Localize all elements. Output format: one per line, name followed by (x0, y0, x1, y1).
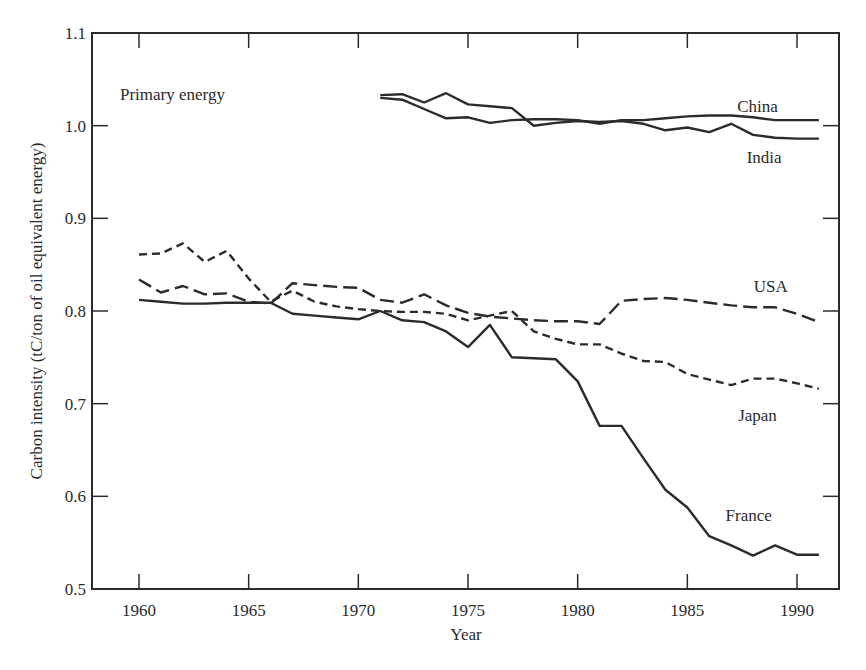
x-tick-label: 1970 (341, 601, 375, 620)
series-line-france (139, 300, 819, 556)
x-tick-label: 1960 (122, 601, 156, 620)
x-axis-ticks: 1960196519701975198019851990 (122, 33, 814, 620)
carbon-intensity-chart: 1960196519701975198019851990 0.50.60.70.… (0, 0, 866, 670)
series-label-japan: Japan (738, 406, 777, 425)
series-line-japan (139, 243, 819, 388)
series-label-china: China (737, 97, 778, 116)
series-lines (139, 93, 819, 555)
x-tick-label: 1980 (561, 601, 595, 620)
y-tick-label: 0.9 (65, 209, 86, 228)
y-tick-label: 1.1 (65, 24, 86, 43)
y-tick-label: 0.5 (65, 580, 86, 599)
x-tick-label: 1975 (451, 601, 485, 620)
y-tick-label: 0.6 (65, 487, 86, 506)
annotation-primary-energy: Primary energy (120, 85, 225, 104)
y-tick-label: 0.7 (65, 395, 87, 414)
series-label-france: France (726, 506, 772, 525)
series-label-usa: USA (754, 277, 789, 296)
series-labels: ChinaIndiaUSAJapanFrance (726, 97, 789, 526)
y-tick-label: 1.0 (65, 117, 86, 136)
series-label-india: India (747, 148, 782, 167)
x-tick-label: 1965 (232, 601, 266, 620)
y-tick-label: 0.8 (65, 302, 86, 321)
y-axis-title: Carbon intensity (tC/ton of oil equivale… (27, 143, 46, 480)
x-axis-title: Year (450, 625, 482, 644)
y-axis-ticks: 0.50.60.70.80.91.01.1 (65, 24, 839, 599)
x-tick-label: 1990 (780, 601, 814, 620)
x-tick-label: 1985 (670, 601, 704, 620)
